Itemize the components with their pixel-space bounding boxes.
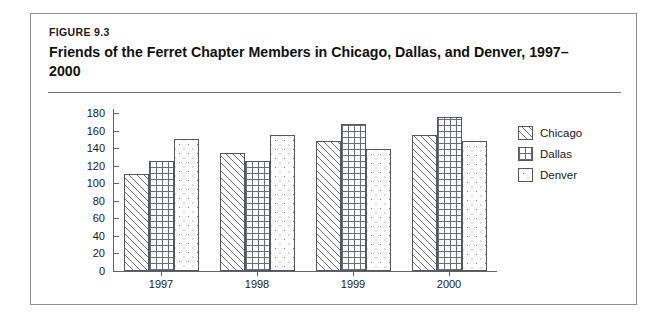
y-axis-tick-mark: [114, 131, 119, 132]
y-axis-tick-mark: [114, 271, 119, 272]
bar-denver-1997: [174, 139, 199, 271]
x-axis-tick-label: 1997: [149, 278, 173, 290]
x-axis-tick-mark: [257, 272, 258, 276]
legend-item-denver: Denver: [518, 164, 582, 185]
bar-dallas-1999: [341, 124, 366, 271]
y-axis-tick-mark: [114, 166, 119, 167]
y-axis-tick-mark: [114, 218, 119, 219]
legend-swatch-chicago-icon: [518, 126, 533, 140]
y-axis-tick-label: 80: [93, 195, 105, 207]
y-axis-tick-mark: [114, 253, 119, 254]
legend-swatch-denver-icon: [518, 168, 533, 182]
bar-chicago-1997: [124, 174, 149, 271]
bar-chicago-2000: [412, 135, 437, 271]
y-axis-tick-label: 120: [87, 160, 105, 172]
legend-item-dallas: Dallas: [518, 143, 582, 164]
bar-chicago-1999: [316, 141, 341, 271]
x-axis-tick-mark: [353, 272, 354, 276]
bar-denver-1999: [366, 149, 391, 271]
legend-label: Chicago: [540, 127, 582, 139]
y-axis-tick-label: 0: [99, 265, 105, 277]
y-axis-line: [113, 109, 114, 272]
y-axis-tick-mark: [114, 113, 119, 114]
bar-denver-2000: [462, 141, 487, 271]
y-axis-tick-label: 100: [87, 177, 105, 189]
legend-item-chicago: Chicago: [518, 122, 582, 143]
bar-dallas-1997: [149, 161, 174, 271]
bar-dallas-1998: [245, 161, 270, 271]
bar-chicago-1998: [220, 153, 245, 272]
chart-legend: ChicagoDallasDenver: [518, 122, 582, 185]
y-axis-tick-label: 40: [93, 230, 105, 242]
bar-denver-1998: [270, 135, 295, 271]
bar-dallas-2000: [437, 117, 462, 271]
y-axis-tick-mark: [114, 201, 119, 202]
x-axis-tick-label: 1999: [341, 278, 365, 290]
x-axis-tick-label: 2000: [437, 278, 461, 290]
x-axis-tick-label: 1998: [245, 278, 269, 290]
y-axis-tick-label: 180: [87, 107, 105, 119]
x-axis-tick-mark: [449, 272, 450, 276]
x-axis-line: [113, 271, 497, 272]
legend-label: Dallas: [540, 148, 572, 160]
legend-swatch-dallas-icon: [518, 147, 533, 161]
y-axis-tick-label: 20: [93, 247, 105, 259]
y-axis-tick-mark: [114, 183, 119, 184]
y-axis-tick-mark: [114, 148, 119, 149]
y-axis-tick-label: 140: [87, 142, 105, 154]
legend-label: Denver: [540, 169, 577, 181]
y-axis-tick-label: 60: [93, 212, 105, 224]
y-axis-tick-label: 160: [87, 125, 105, 137]
figure-frame: FIGURE 9.3 Friends of the Ferret Chapter…: [30, 13, 637, 305]
x-axis-tick-mark: [161, 272, 162, 276]
y-axis-tick-mark: [114, 236, 119, 237]
